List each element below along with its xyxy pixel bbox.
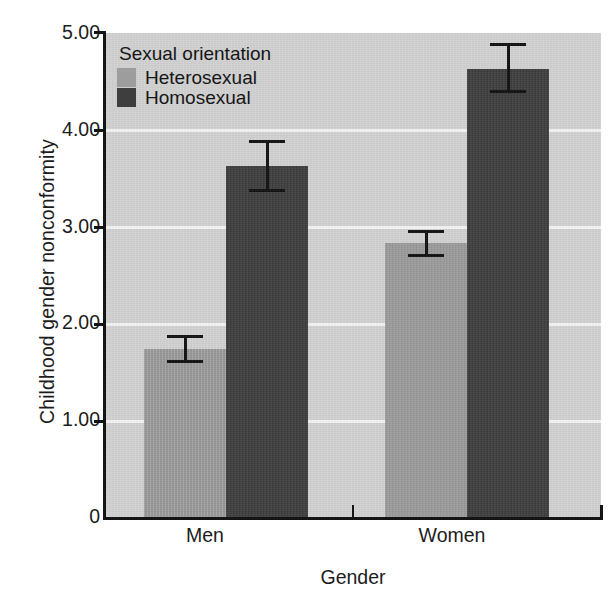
x-tick-label-men: Men	[105, 524, 305, 547]
y-tick-label-0: 0	[26, 507, 100, 527]
y-tick-mark-1	[94, 420, 106, 423]
y-tick-label-4: 4.00	[26, 120, 100, 140]
error-bar-cap-top	[249, 140, 285, 143]
y-tick-mark-3	[94, 226, 106, 229]
x-axis-right-cap	[600, 505, 603, 518]
y-tick-mark-2	[94, 323, 106, 326]
plot-area: Sexual orientation Heterosexual Homosexu…	[105, 33, 601, 517]
y-axis-top-cap	[94, 31, 106, 34]
bar-men-heterosexual	[144, 349, 226, 517]
error-bar-cap-top	[167, 335, 203, 338]
y-axis-line	[103, 31, 106, 520]
y-tick-label-5: 5.00	[26, 23, 100, 43]
legend-swatch-homosexual	[117, 88, 136, 107]
x-tick-label-women: Women	[352, 524, 552, 547]
y-tick-label-2: 2.00	[26, 313, 100, 333]
legend-label-homosexual: Homosexual	[145, 88, 251, 107]
error-bar-cap-top	[490, 43, 526, 46]
legend-swatch-heterosexual	[117, 68, 136, 87]
x-tick-mark-center	[352, 505, 354, 518]
legend: Sexual orientation Heterosexual Homosexu…	[117, 43, 271, 108]
legend-item-heterosexual: Heterosexual	[117, 68, 271, 87]
legend-item-homosexual: Homosexual	[117, 88, 271, 107]
y-tick-mark-4	[94, 129, 106, 132]
bar-women-homosexual	[467, 69, 549, 517]
y-tick-label-3: 3.00	[26, 217, 100, 237]
error-bar-cap-top	[408, 230, 444, 233]
bar-chart-figure: Childhood gender nonconformity 5.00 4.00…	[0, 0, 614, 607]
bar-women-heterosexual	[385, 243, 467, 517]
bar-men-homosexual	[226, 166, 308, 517]
x-axis-title: Gender	[105, 566, 601, 589]
legend-title: Sexual orientation	[119, 43, 271, 65]
legend-label-heterosexual: Heterosexual	[145, 68, 257, 87]
y-tick-label-1: 1.00	[26, 410, 100, 430]
y-axis-tick-labels: 5.00 4.00 3.00 2.00 1.00 0	[14, 0, 100, 607]
